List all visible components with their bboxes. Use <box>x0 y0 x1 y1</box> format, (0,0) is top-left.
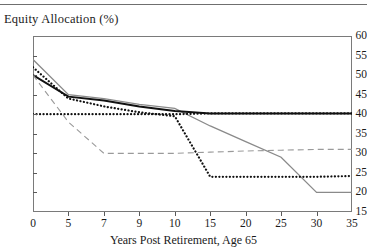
y-tick-label: 15 <box>345 206 367 218</box>
x-tick-mark <box>246 212 247 216</box>
x-axis-title: Years Post Retirement, Age 65 <box>0 233 367 248</box>
y-tick-mark <box>33 95 37 96</box>
y-tick-label: 60 <box>345 30 367 42</box>
x-tick-mark <box>68 212 69 216</box>
y-tick-label: 40 <box>345 108 367 120</box>
y-tick-mark <box>33 192 37 193</box>
y-tick-label: 30 <box>345 147 367 159</box>
x-tick-label: 15 <box>197 218 223 230</box>
x-tick-mark <box>210 212 211 216</box>
x-tick-mark <box>104 212 105 216</box>
chart-container: Equity Allocation (%) Years Post Retirem… <box>0 0 367 252</box>
x-tick-label: 9 <box>126 218 152 230</box>
y-tick-mark <box>33 56 37 57</box>
chart-title: Equity Allocation (%) <box>4 12 119 27</box>
x-tick-label: 25 <box>268 218 294 230</box>
series-lines <box>33 36 352 212</box>
y-tick-mark <box>33 173 37 174</box>
x-tick-mark <box>139 212 140 216</box>
y-tick-label: 20 <box>345 186 367 198</box>
x-tick-label: 20 <box>233 218 259 230</box>
x-tick-label: 5 <box>55 218 81 230</box>
x-tick-label: 30 <box>304 218 330 230</box>
x-tick-mark <box>317 212 318 216</box>
series-black-solid-thick <box>33 75 352 113</box>
y-tick-label: 45 <box>345 89 367 101</box>
x-tick-mark <box>175 212 176 216</box>
y-tick-mark <box>33 114 37 115</box>
x-tick-label: 35 <box>339 218 365 230</box>
series-gray-solid-declining <box>33 59 352 192</box>
y-tick-label: 50 <box>345 69 367 81</box>
y-tick-mark <box>33 75 37 76</box>
x-tick-label: 7 <box>91 218 117 230</box>
y-tick-mark <box>33 153 37 154</box>
top-divider-rule <box>0 4 367 5</box>
x-tick-label: 0 <box>20 218 46 230</box>
y-tick-label: 25 <box>345 167 367 179</box>
y-tick-mark <box>33 134 37 135</box>
plot-area <box>33 36 352 212</box>
y-tick-label: 55 <box>345 50 367 62</box>
x-tick-mark <box>281 212 282 216</box>
y-tick-label: 35 <box>345 128 367 140</box>
series-black-dotted-declining <box>33 67 352 177</box>
x-tick-label: 10 <box>162 218 188 230</box>
